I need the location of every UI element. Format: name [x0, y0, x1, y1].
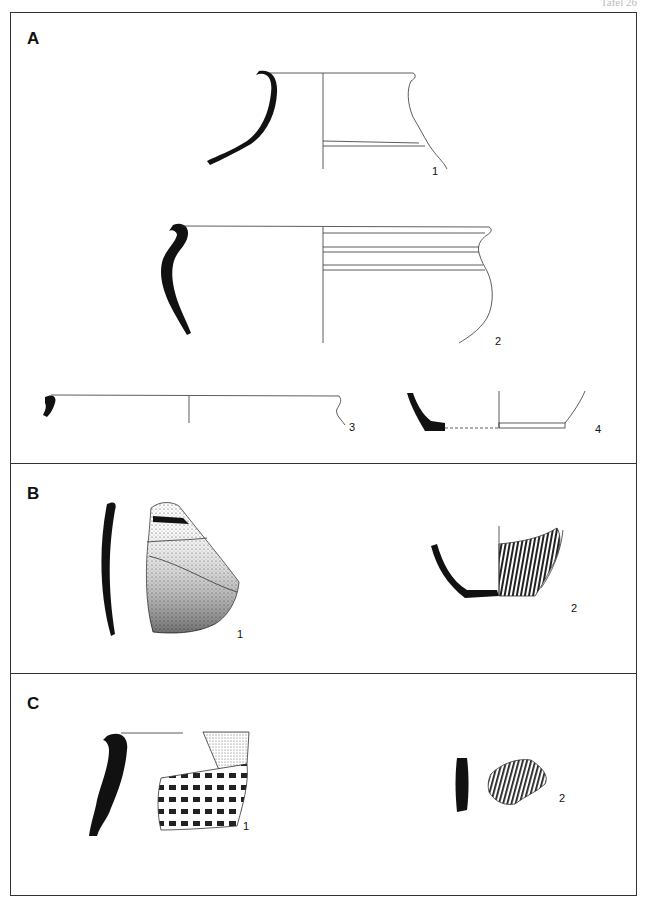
- plate-number: Tafel 26: [601, 0, 637, 8]
- section-a-drawings: [11, 13, 638, 463]
- section-a: A: [11, 13, 636, 463]
- figure-a4-drawing: [407, 391, 585, 431]
- figure-number: 2: [571, 602, 577, 614]
- figure-b1-drawing: [101, 502, 239, 636]
- figure-a3-drawing: [43, 395, 345, 425]
- figure-a1-drawing: [207, 71, 447, 169]
- figure-number: 1: [243, 820, 249, 832]
- figure-c1-drawing: [89, 732, 249, 836]
- section-b-drawings: [11, 464, 638, 674]
- section-b: B: [11, 463, 636, 673]
- figure-number: 1: [432, 165, 438, 177]
- figure-number: 2: [559, 792, 565, 804]
- figure-number: 2: [495, 335, 501, 347]
- figure-a2-drawing: [161, 224, 492, 343]
- figure-number: 1: [237, 628, 243, 640]
- plate-frame: A: [10, 12, 637, 896]
- figure-c2-drawing: [456, 758, 547, 812]
- section-c-drawings: [11, 674, 638, 896]
- figure-number: 4: [595, 423, 601, 435]
- section-c: C: [11, 673, 636, 895]
- figure-number: 3: [349, 421, 355, 433]
- figure-b2-drawing: [431, 526, 563, 598]
